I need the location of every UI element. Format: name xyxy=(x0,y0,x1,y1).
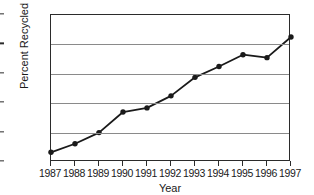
x-axis: Year 19871988198919901991199219931994199… xyxy=(50,161,290,195)
x-tick-label-1995: 1995 xyxy=(231,167,253,179)
gridline-y-40 xyxy=(51,44,289,45)
y-tick-mark-30 xyxy=(0,72,4,73)
recycling-line-chart: Percent Recycled 01020304050 Year 198719… xyxy=(0,0,314,195)
x-tick-mark-1991 xyxy=(146,161,147,166)
y-axis: Percent Recycled 01020304050 xyxy=(0,0,50,195)
x-tick-mark-1996 xyxy=(266,161,267,166)
data-point-1988 xyxy=(72,141,77,146)
x-tick-mark-1990 xyxy=(122,161,123,166)
data-point-1987 xyxy=(48,150,53,155)
x-tick-label-1993: 1993 xyxy=(183,167,205,179)
x-tick-label-1996: 1996 xyxy=(255,167,277,179)
plot-area xyxy=(50,14,290,161)
y-tick-mark-40 xyxy=(0,43,4,44)
y-tick-mark-0 xyxy=(0,160,4,161)
x-tick-mark-1987 xyxy=(50,161,51,166)
x-tick-label-1990: 1990 xyxy=(111,167,133,179)
x-tick-label-1992: 1992 xyxy=(159,167,181,179)
x-tick-mark-1997 xyxy=(290,161,291,166)
data-point-1996 xyxy=(264,55,269,60)
data-point-1994 xyxy=(216,64,221,69)
x-tick-mark-1992 xyxy=(170,161,171,166)
y-tick-mark-10 xyxy=(0,131,4,132)
data-point-1990 xyxy=(120,109,125,114)
y-axis-title: Percent Recycled xyxy=(18,0,30,116)
x-tick-label-1987: 1987 xyxy=(39,167,61,179)
x-tick-mark-1995 xyxy=(242,161,243,166)
x-tick-label-1989: 1989 xyxy=(87,167,109,179)
data-point-1997 xyxy=(288,34,293,39)
gridline-y-20 xyxy=(51,103,289,104)
data-point-1991 xyxy=(144,105,149,110)
x-tick-label-1991: 1991 xyxy=(135,167,157,179)
x-tick-label-1988: 1988 xyxy=(63,167,85,179)
data-point-1993 xyxy=(192,75,197,80)
x-tick-mark-1994 xyxy=(218,161,219,166)
x-tick-label-1997: 1997 xyxy=(279,167,301,179)
x-axis-title: Year xyxy=(50,182,290,194)
data-point-1995 xyxy=(240,52,245,57)
x-tick-mark-1993 xyxy=(194,161,195,166)
y-tick-mark-50 xyxy=(0,13,4,14)
x-tick-mark-1988 xyxy=(74,161,75,166)
x-tick-mark-1989 xyxy=(98,161,99,166)
series-line-percent-recycled xyxy=(51,15,291,162)
x-tick-label-1994: 1994 xyxy=(207,167,229,179)
y-tick-mark-20 xyxy=(0,102,4,103)
gridline-y-10 xyxy=(51,133,289,134)
gridline-y-30 xyxy=(51,74,289,75)
data-point-1992 xyxy=(168,93,173,98)
